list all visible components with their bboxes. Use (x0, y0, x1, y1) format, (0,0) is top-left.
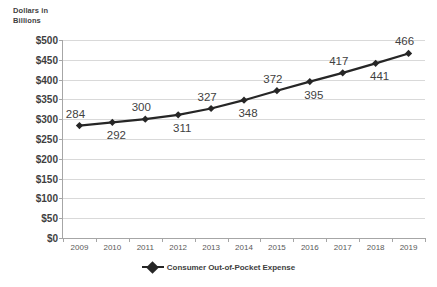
data-point-marker (142, 116, 149, 123)
y-axis-tick-mark (59, 119, 63, 120)
data-point-label: 311 (173, 122, 191, 134)
data-point-marker (339, 69, 346, 76)
data-point-marker (273, 87, 280, 94)
data-point-marker (240, 97, 247, 104)
legend-marker-icon (142, 262, 164, 272)
data-point-marker (76, 122, 83, 129)
data-point-marker (109, 119, 116, 126)
y-axis-tick-mark (59, 80, 63, 81)
y-axis-tick-mark (59, 238, 63, 239)
data-point-marker (372, 60, 379, 67)
data-point-marker (207, 105, 214, 112)
data-point-label: 348 (238, 107, 257, 119)
series-consumer-out-of-pocket-expense (0, 0, 437, 287)
data-point-marker (405, 50, 412, 57)
data-point-marker (306, 78, 313, 85)
data-point-label: 284 (66, 108, 85, 120)
chart-legend: Consumer Out-of-Pocket Expense (0, 262, 437, 272)
y-axis-tick-mark (59, 218, 63, 219)
y-axis-tick-mark (59, 60, 63, 61)
data-point-label: 292 (107, 129, 126, 141)
y-axis-tick-mark (59, 198, 63, 199)
data-point-label: 466 (395, 35, 414, 47)
y-axis-tick-mark (59, 159, 63, 160)
legend-label-consumer-out-of-pocket-expense: Consumer Out-of-Pocket Expense (167, 263, 295, 272)
y-axis-tick-mark (59, 99, 63, 100)
y-axis-tick-mark (59, 179, 63, 180)
data-point-label: 395 (304, 89, 323, 101)
data-point-label: 300 (132, 101, 151, 113)
data-point-label: 441 (370, 70, 389, 82)
y-axis-tick-mark (59, 40, 63, 41)
y-axis-tick-mark (59, 139, 63, 140)
data-point-label: 372 (263, 73, 282, 85)
data-point-marker (175, 111, 182, 118)
data-point-label: 417 (329, 55, 348, 67)
line-chart: Dollars in Billions $0$50$100$150$200$25… (0, 0, 437, 287)
data-point-label: 327 (197, 91, 216, 103)
